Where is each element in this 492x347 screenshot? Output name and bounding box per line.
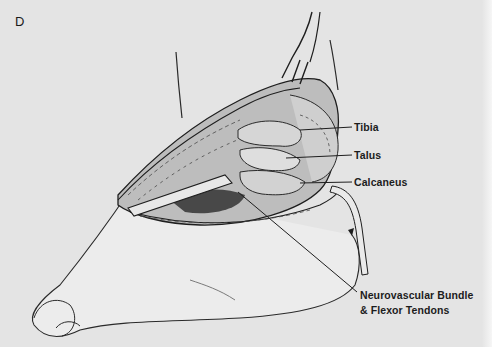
label-talus: Talus [354, 148, 381, 162]
leg-outline-right [330, 40, 338, 90]
label-neurovascular-line2: & Flexor Tendons [360, 303, 450, 317]
surgical-illustration: D Tibia Talus Calcaneus Neurovascular Bu… [0, 0, 492, 347]
rake-retractor-handle [310, 12, 320, 62]
rake-retractor [282, 12, 312, 84]
tibia-bone [238, 121, 301, 146]
label-neurovascular-line1: Neurovascular Bundle [360, 288, 473, 302]
label-calcaneus: Calcaneus [354, 175, 407, 189]
label-tibia: Tibia [354, 120, 379, 134]
panel-letter: D [15, 14, 24, 29]
leg-outline-left [176, 52, 182, 118]
